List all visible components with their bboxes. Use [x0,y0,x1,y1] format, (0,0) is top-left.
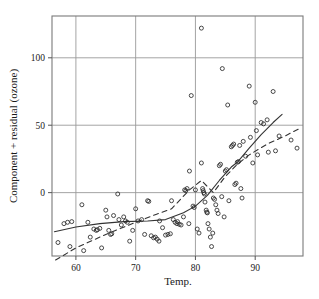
data-point [119,223,123,227]
chart-canvas: 60708090050100 Temp. Component + residua… [0,0,319,299]
data-point [248,135,252,139]
data-point [238,143,242,147]
data-point [226,103,230,107]
data-point [274,149,278,153]
data-point [56,241,60,245]
data-point [227,199,231,203]
data-point [207,227,211,231]
data-point [181,215,185,219]
data-point [239,187,243,191]
x-tick-label: 80 [191,263,201,273]
data-point [131,228,135,232]
data-point [247,84,251,88]
data-point [220,67,224,71]
y-tick-label: 50 [36,121,46,131]
fit-line-loess-smooth [54,114,282,231]
data-point [170,199,174,203]
data-point [107,228,111,232]
data-point [289,138,293,142]
data-point [197,231,201,235]
data-point [122,215,126,219]
data-point [187,169,191,173]
data-point [199,161,203,165]
x-axis-title: Temp. [164,275,192,287]
data-point [266,150,270,154]
data-point [66,220,70,224]
data-point [68,245,72,249]
data-point [189,94,193,98]
y-tick-label: 100 [31,53,46,63]
data-point [295,146,299,150]
data-point [199,26,203,30]
data-point [210,245,214,249]
x-tick-label: 70 [131,263,141,273]
data-point [206,222,210,226]
data-point [112,214,116,218]
data-point [208,235,212,239]
data-point [143,232,147,236]
data-point [82,249,86,253]
data-point [100,246,104,250]
data-point [88,235,92,239]
data-point [128,239,132,243]
data-point [104,208,108,212]
x-tick-label: 90 [250,263,260,273]
data-point [161,226,165,230]
component-residual-plot: 60708090050100 Temp. Component + residua… [0,0,319,299]
data-point [214,203,218,207]
data-points [56,26,299,252]
data-point [220,195,224,199]
y-axis-title: Component + residual (ozone) [7,69,20,204]
data-point [211,231,215,235]
data-point [222,215,226,219]
data-point [203,200,207,204]
data-point [241,139,245,143]
data-point [70,220,74,224]
data-point [105,215,109,219]
data-point [265,118,269,122]
fit-line-linear-component [56,128,301,260]
fit-lines [54,114,300,260]
data-point [117,218,121,222]
data-point [187,222,191,226]
axis-tick-labels: 60708090050100 [31,53,260,273]
data-point [168,232,172,236]
x-tick-label: 60 [71,263,81,273]
data-point [277,134,281,138]
data-point [86,220,90,224]
y-tick-label: 0 [40,188,45,198]
data-point [271,90,275,94]
data-point [80,203,84,207]
data-point [256,153,260,157]
data-point [251,161,255,165]
data-point [240,196,244,200]
tick-marks [48,58,255,260]
